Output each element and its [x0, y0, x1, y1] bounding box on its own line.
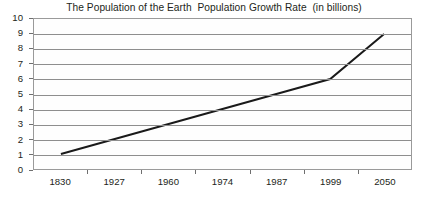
x-tick-label-1987: 1987 — [266, 176, 287, 188]
x-tick-mark-2 — [141, 170, 142, 174]
gridline-y-9 — [34, 34, 411, 35]
gridline-y-1 — [34, 155, 411, 156]
plot-area — [33, 18, 412, 170]
x-tick-mark-6 — [358, 170, 359, 174]
x-tick-label-2050: 2050 — [374, 176, 395, 188]
x-tick-mark-5 — [304, 170, 305, 174]
y-tick-label-5: 5 — [18, 89, 23, 99]
y-tick-label-3: 3 — [18, 119, 23, 129]
x-tick-label-1974: 1974 — [212, 176, 233, 188]
gridline-y-7 — [34, 64, 411, 65]
gridline-y-4 — [34, 110, 411, 111]
x-tick-label-1999: 1999 — [320, 176, 341, 188]
y-axis: 012345678910 — [0, 18, 28, 170]
x-axis-ticks — [33, 170, 412, 174]
gridline-y-5 — [34, 95, 411, 96]
gridline-y-3 — [34, 125, 411, 126]
gridline-y-6 — [34, 79, 411, 80]
y-tick-label-7: 7 — [18, 59, 23, 69]
y-tick-label-0: 0 — [18, 165, 23, 175]
y-tick-label-6: 6 — [18, 74, 23, 84]
y-tick-label-8: 8 — [18, 43, 23, 53]
y-tick-label-2: 2 — [18, 135, 23, 145]
x-tick-mark-1 — [87, 170, 88, 174]
chart-title: The Population of the Earth Population G… — [0, 1, 428, 14]
gridline-y-8 — [34, 49, 411, 50]
population-growth-line-chart: The Population of the Earth Population G… — [0, 0, 428, 200]
x-tick-mark-3 — [195, 170, 196, 174]
x-tick-mark-4 — [250, 170, 251, 174]
y-tick-label-9: 9 — [18, 28, 23, 38]
x-axis: 1830192719601974198719992050 — [33, 176, 412, 190]
y-tick-label-1: 1 — [18, 150, 23, 160]
x-tick-label-1960: 1960 — [158, 176, 179, 188]
gridline-y-2 — [34, 140, 411, 141]
y-tick-label-10: 10 — [12, 13, 23, 23]
x-tick-label-1830: 1830 — [49, 176, 70, 188]
x-tick-label-1927: 1927 — [104, 176, 125, 188]
y-tick-label-4: 4 — [18, 104, 23, 114]
